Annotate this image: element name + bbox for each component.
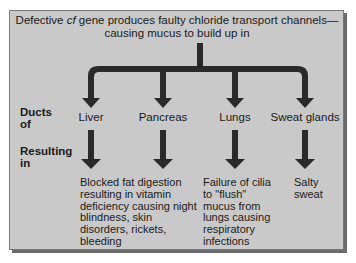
arrow-head-lungs-icon xyxy=(226,98,244,108)
arrow-head-sweat-icon xyxy=(296,98,314,108)
result-lungs: Failure of cilia to "flush" mucus from l… xyxy=(203,177,271,248)
arrow-down-icon xyxy=(225,159,245,169)
stem-line xyxy=(197,43,203,69)
organ-pancreas: Pancreas xyxy=(139,111,188,124)
branch-lungs xyxy=(232,70,238,100)
arrow-head-liver-icon xyxy=(82,98,100,108)
organ-liver: Liver xyxy=(79,111,104,124)
arrow-pancreas-result xyxy=(160,130,166,162)
arrow-head-pancreas-icon xyxy=(154,98,172,108)
row-label-ducts: Ducts of xyxy=(20,106,52,130)
arrow-lungs-result xyxy=(232,130,238,162)
row-label-resulting: Resulting in xyxy=(20,145,72,169)
branch-pancreas xyxy=(160,70,166,100)
result-liver-pancreas: Blocked fat digestion resulting in vitam… xyxy=(80,177,197,248)
result-sweat-glands: Salty sweat xyxy=(294,177,323,201)
branch-bar xyxy=(88,66,308,100)
organ-sweat-glands: Sweat glands xyxy=(270,111,339,124)
arrow-liver-result xyxy=(88,130,94,162)
arrow-down-icon xyxy=(295,159,315,169)
organ-lungs: Lungs xyxy=(219,111,250,124)
arrow-sweat-result xyxy=(302,130,308,162)
arrow-down-icon xyxy=(153,159,173,169)
arrow-down-icon xyxy=(81,159,101,169)
